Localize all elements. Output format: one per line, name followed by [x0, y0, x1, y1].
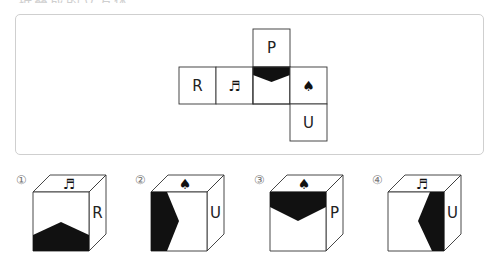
net-face-u: U [290, 104, 327, 141]
music-note-icon: ♬ [63, 176, 76, 192]
music-note-icon: ♬ [416, 176, 429, 192]
cube-right-label: R [92, 204, 102, 222]
option-number: ② [135, 173, 146, 187]
cube-right-label: P [330, 204, 339, 222]
net-face-music: ♬ [216, 67, 253, 104]
option-2[interactable]: ② ♠ U [135, 173, 225, 251]
spade-icon: ♠ [298, 176, 311, 192]
music-note-icon: ♬ [228, 78, 241, 94]
option-number: ④ [372, 173, 383, 187]
net-face-label: R [192, 77, 202, 95]
spade-icon: ♠ [179, 176, 192, 192]
cube-right-label: U [210, 204, 221, 222]
option-3[interactable]: ③ ♠ P [254, 173, 344, 251]
net-face-label: P [267, 39, 276, 57]
net-face-shaded [253, 67, 290, 104]
cube-right-label: U [447, 204, 458, 222]
option-number: ③ [254, 173, 265, 187]
net-face-r: R [179, 67, 216, 104]
net-face-label: U [303, 114, 314, 132]
option-4[interactable]: ④ ♬ U [372, 173, 462, 251]
net-face-top: P [253, 29, 290, 67]
diagram-canvas: P R ♬ ♠ U ① ♬ R [0, 0, 500, 276]
spade-icon: ♠ [302, 78, 315, 94]
net-face-spade: ♠ [290, 67, 327, 104]
option-1[interactable]: ① ♬ R [16, 173, 107, 251]
option-number: ① [16, 173, 27, 187]
cube-net: P R ♬ ♠ U [179, 29, 327, 141]
